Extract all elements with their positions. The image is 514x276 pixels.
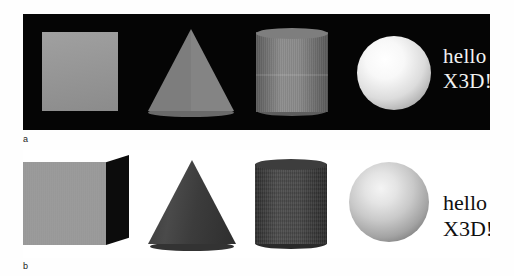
panel-b-cylinder-body [255,164,327,244]
panel-a-cylinder-body [256,32,328,112]
panel-b-overlay-text: hello X3D! [443,190,490,242]
panel-b-text-line-1: hello [443,190,490,216]
x3d-primitives-figure: hello X3D! a hello X3D! b [0,0,514,276]
panel-b-box-shape [23,155,133,245]
panel-a-scene: hello X3D! [23,14,490,130]
panel-a-text-line-2: X3D! [443,69,490,94]
panel-a-cylinder-shape [256,28,328,116]
panel-b-scene: hello X3D! [23,150,490,258]
panel-b-box-front-face [23,162,106,245]
panel-b-caption: b [23,261,28,272]
panel-b-cone-shape [148,160,236,248]
panel-a-caption: a [23,134,28,145]
panel-a-sphere-shape [357,36,431,110]
panel-b-cone-body [148,160,236,244]
panel-b-cylinder-shape [255,159,327,249]
panel-a-cylinder-top-cap [256,28,328,39]
panel-b-box-side-face [106,155,129,245]
panel-a-cylinder-seam [256,74,328,76]
panel-b-cylinder-top-cap [255,159,327,170]
panel-a-cone-shape [148,29,234,113]
panel-a-box-shape [42,32,118,111]
panel-b-sphere-shape [349,162,429,242]
panel-a-overlay-text: hello X3D! [443,44,490,94]
panel-b-text-line-2: X3D! [443,216,490,242]
panel-a-cone-highlight [191,29,234,111]
panel-a-text-line-1: hello [443,44,490,69]
